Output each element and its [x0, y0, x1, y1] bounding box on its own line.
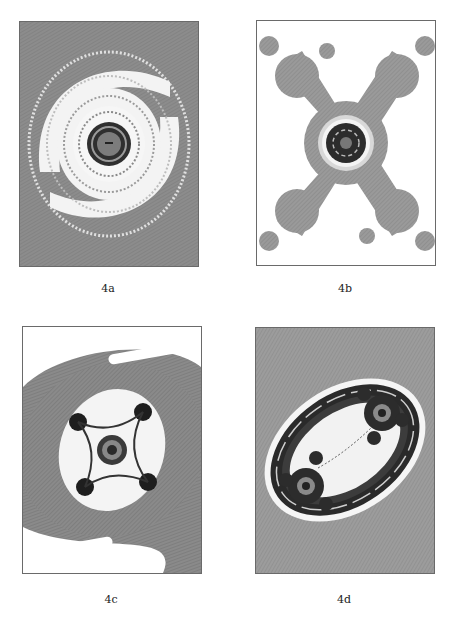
figure-panel-4a: [19, 21, 199, 267]
fractal-image-4c: [23, 327, 201, 573]
panel-label-4a: 4a: [78, 282, 138, 295]
panel-label-4b: 4b: [315, 282, 375, 295]
fractal-image-4d: [256, 328, 434, 573]
panel-label-4c: 4c: [81, 593, 141, 606]
fractal-image-4a: [20, 22, 198, 266]
figure-panel-4b: [256, 20, 436, 266]
fractal-image-4b: [257, 21, 435, 265]
panel-label-4d: 4d: [314, 593, 374, 606]
figure-panel-4c: [22, 326, 202, 574]
figure-panel-4d: [255, 327, 435, 574]
